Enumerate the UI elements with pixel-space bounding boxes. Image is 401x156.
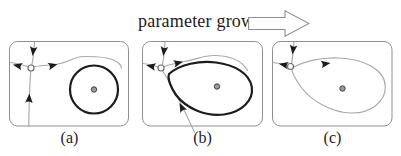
saddle-point-marker	[158, 65, 164, 71]
figure-canvas: parameter grows	[0, 0, 401, 156]
saddle-point-marker	[288, 64, 294, 70]
focus-point-marker	[91, 87, 96, 92]
focus-point-marker	[214, 84, 219, 89]
arrowhead-right-icon	[321, 59, 332, 68]
panel-label-a: (a)	[9, 129, 130, 147]
stable-manifold-lower-right-curve	[163, 71, 195, 132]
panel-a-border	[10, 42, 129, 127]
arrowhead-down-icon	[29, 46, 38, 56]
homoclinic-loop-curve	[292, 58, 386, 113]
caption-text: parameter grows	[138, 11, 261, 32]
unstable-manifold-spiral-curve	[34, 56, 122, 68]
phase-portrait-b	[142, 41, 263, 135]
saddle-point-marker	[28, 65, 34, 71]
phase-portrait-c	[272, 41, 393, 135]
focus-point-marker	[340, 86, 345, 91]
block-arrow-shape	[249, 11, 309, 36]
phase-portrait-a	[9, 41, 130, 135]
panel-c-border	[273, 42, 393, 127]
arrowhead-down-icon	[289, 45, 298, 55]
panel-label-c: (c)	[272, 129, 393, 147]
block-arrow-right-icon	[248, 10, 310, 37]
arrowhead-down-icon	[160, 46, 169, 56]
panel-label-b: (b)	[142, 129, 263, 147]
